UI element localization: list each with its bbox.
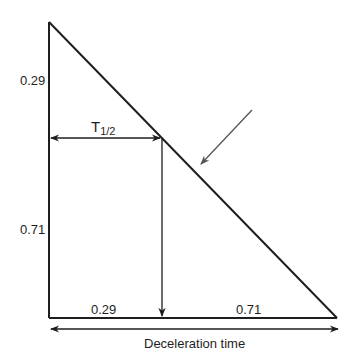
pointer-arrow	[201, 110, 252, 164]
triangle-hypotenuse	[49, 22, 337, 318]
left-upper-label: 0.29	[20, 73, 45, 88]
half-time-label-main: T	[91, 118, 100, 135]
bottom-left-label: 0.29	[91, 302, 116, 317]
half-time-label-subscript: 1/2	[100, 125, 115, 137]
x-axis-label: Deceleration time	[144, 336, 245, 351]
half-time-label: T1/2	[91, 118, 115, 135]
left-lower-label: 0.71	[20, 222, 45, 237]
bottom-right-label: 0.71	[236, 302, 261, 317]
deceleration-triangle-diagram	[0, 0, 357, 361]
